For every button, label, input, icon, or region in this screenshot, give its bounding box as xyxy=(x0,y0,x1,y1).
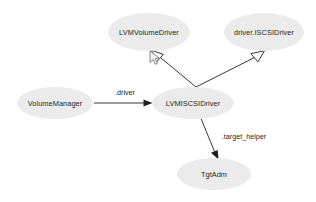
node-label-volume-manager: VolumeManager xyxy=(28,99,83,108)
uml-relationship-diagram: .driver .target_helper LVMVolumeDriver d… xyxy=(0,0,316,202)
edge-line-inherit-lvm-volume-driver xyxy=(161,58,197,88)
solid-arrowhead-icon xyxy=(144,99,153,106)
node-label-tgt-adm: TgtAdm xyxy=(201,170,227,179)
diagram-canvas: .driver .target_helper LVMVolumeDriver d… xyxy=(0,0,316,202)
edge-label-driver: .driver xyxy=(115,88,136,97)
node-label-lvm-volume-driver: LVMVolumeDriver xyxy=(119,28,179,37)
edge-line-assoc-target-helper xyxy=(201,119,215,152)
edge-inherit-driver-iscsi-driver[interactable] xyxy=(196,51,265,87)
node-label-driver-iscsi-driver: driver.ISCSIDriver xyxy=(234,28,295,37)
node-label-lvm-iscsi-driver: LVMISCSIDriver xyxy=(166,99,221,108)
hollow-triangle-arrowhead-icon xyxy=(251,51,265,62)
node-driver-iscsi-driver[interactable]: driver.ISCSIDriver xyxy=(224,13,304,51)
node-tgt-adm[interactable]: TgtAdm xyxy=(177,158,251,190)
edge-line-inherit-driver-iscsi-driver xyxy=(196,58,255,88)
node-lvm-iscsi-driver[interactable]: LVMISCSIDriver xyxy=(152,87,234,119)
edge-label-target-helper: .target_helper xyxy=(222,132,267,141)
edge-assoc-driver[interactable]: .driver xyxy=(94,88,153,107)
node-lvm-volume-driver[interactable]: LVMVolumeDriver xyxy=(108,13,190,51)
edge-inherit-lvm-volume-driver[interactable] xyxy=(152,50,197,87)
node-volume-manager[interactable]: VolumeManager xyxy=(17,87,93,119)
edge-assoc-target-helper[interactable]: .target_helper xyxy=(201,119,267,160)
